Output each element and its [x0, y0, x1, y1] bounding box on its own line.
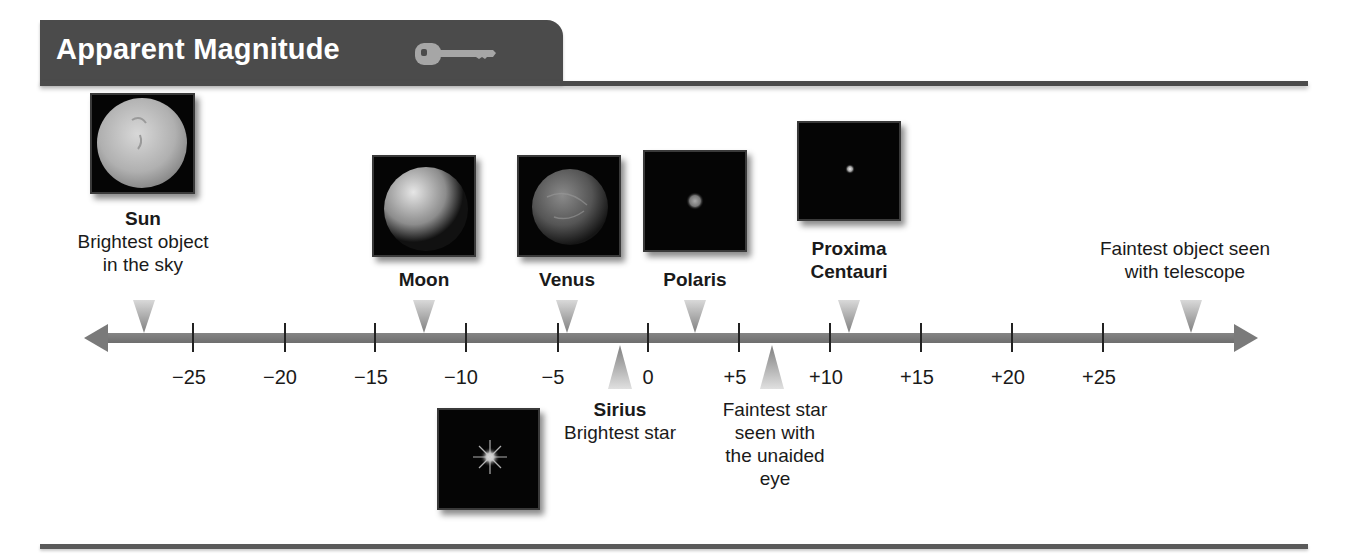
- tick-label: +15: [900, 366, 934, 389]
- unaided-eye-limit-marker-icon: [760, 345, 784, 389]
- object-name: Polaris: [663, 268, 726, 291]
- tick-label: +5: [724, 366, 747, 389]
- proxima-centauri-label: Proxima Centauri: [810, 237, 887, 283]
- object-description: Brightest star: [564, 421, 676, 444]
- key-icon: [415, 41, 497, 71]
- tick-label: −15: [354, 366, 388, 389]
- tick-label: +25: [1082, 366, 1116, 389]
- tick: [738, 323, 740, 352]
- tick-label: +10: [809, 366, 843, 389]
- object-description: the unaided: [723, 444, 828, 467]
- object-name: Moon: [399, 268, 450, 291]
- tick-label: +20: [991, 366, 1025, 389]
- sirius-marker-icon: [608, 345, 632, 389]
- sun-label: Sun Brightest object in the sky: [78, 207, 209, 276]
- sun-image: [90, 93, 195, 194]
- header-tab: Apparent Magnitude: [40, 20, 563, 83]
- moon-image: [372, 155, 476, 257]
- left-arrow-icon: [84, 324, 108, 352]
- venus-label: Venus: [539, 268, 595, 291]
- tick-label: −10: [444, 366, 478, 389]
- unaided-eye-limit-label: Faintest star seen with the unaided eye: [723, 398, 828, 490]
- object-name: Centauri: [810, 260, 887, 283]
- object-name: Sirius: [564, 398, 676, 421]
- page-title: Apparent Magnitude: [56, 33, 340, 66]
- object-name: Venus: [539, 268, 595, 291]
- object-description: Faintest object seen: [1100, 237, 1270, 260]
- tick: [465, 323, 467, 352]
- tick: [920, 323, 922, 352]
- polaris-label: Polaris: [663, 268, 726, 291]
- proxima-centauri-marker-icon: [838, 300, 860, 333]
- sirius-label: Sirius Brightest star: [564, 398, 676, 444]
- bottom-divider: [40, 544, 1308, 549]
- tick: [374, 323, 376, 352]
- tick: [1102, 323, 1104, 352]
- number-line: [104, 333, 1238, 343]
- object-name: Proxima: [810, 237, 887, 260]
- tick: [647, 323, 649, 352]
- object-description: in the sky: [78, 253, 209, 276]
- object-name: Sun: [78, 207, 209, 230]
- object-description: Brightest object: [78, 230, 209, 253]
- tick: [1011, 323, 1013, 352]
- tick-label: −20: [263, 366, 297, 389]
- object-description: Faintest star: [723, 398, 828, 421]
- moon-marker-icon: [413, 300, 435, 333]
- polaris-image: [643, 150, 747, 252]
- sirius-image: [437, 408, 540, 510]
- proxima-centauri-image: [797, 121, 901, 221]
- object-description: with telescope: [1100, 260, 1270, 283]
- telescope-limit-marker-icon: [1180, 300, 1202, 333]
- polaris-marker-icon: [684, 300, 706, 333]
- moon-label: Moon: [399, 268, 450, 291]
- tick: [284, 323, 286, 352]
- tick: [192, 323, 194, 352]
- tick: [829, 323, 831, 352]
- venus-marker-icon: [556, 300, 578, 333]
- right-arrow-icon: [1234, 324, 1258, 352]
- object-description: seen with: [723, 421, 828, 444]
- tick-label: 0: [642, 366, 653, 389]
- telescope-limit-label: Faintest object seen with telescope: [1100, 237, 1270, 283]
- venus-image: [517, 155, 621, 257]
- tick-label: −25: [172, 366, 206, 389]
- top-divider: [40, 81, 1308, 86]
- tick-label: −5: [542, 366, 565, 389]
- sun-marker-icon: [133, 300, 155, 333]
- object-description: eye: [723, 467, 828, 490]
